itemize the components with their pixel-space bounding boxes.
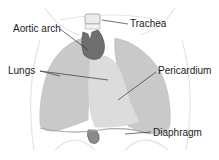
esophagus-cut [87,130,99,144]
left-lung [40,38,90,131]
trachea-shape [85,14,100,24]
label-aortic-arch: Aortic arch [13,24,61,34]
label-pericardium: Pericardium [158,66,211,76]
label-diaphragm: Diaphragm [153,128,202,138]
label-trachea: Trachea [130,19,166,29]
aortic-arch-shape [82,30,105,59]
label-lungs: Lungs [8,66,35,76]
thorax-diagram: Aortic arch Trachea Lungs Pericardium Di… [0,0,219,160]
